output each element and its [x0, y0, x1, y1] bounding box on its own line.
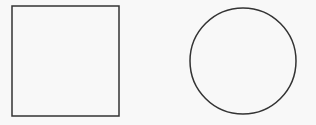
shapes-svg [0, 0, 316, 125]
circle-shape [190, 8, 296, 114]
diagram-canvas [0, 0, 316, 125]
square-shape [12, 6, 119, 116]
